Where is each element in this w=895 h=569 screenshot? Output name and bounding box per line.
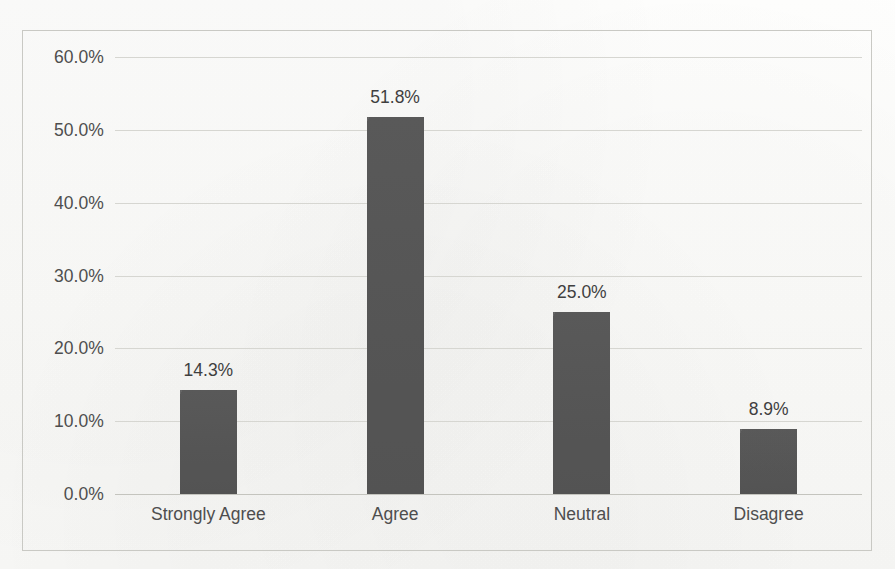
x-axis-category-label: Neutral — [554, 504, 610, 525]
x-axis-category-label: Agree — [372, 504, 419, 525]
bar-chart-figure: 0.0%10.0%20.0%30.0%40.0%50.0%60.0% 14.3%… — [0, 0, 895, 569]
x-axis-category-label: Disagree — [734, 504, 804, 525]
x-axis-label-group: Strongly AgreeAgreeNeutralDisagree — [0, 0, 895, 569]
x-axis-category-label: Strongly Agree — [151, 504, 266, 525]
